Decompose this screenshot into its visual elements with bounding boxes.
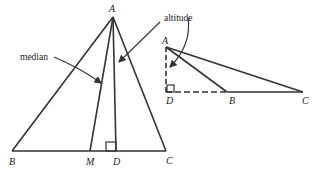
vertex-m-label: M <box>85 156 95 167</box>
right-triangle <box>166 47 303 92</box>
altitude-arrow-right <box>170 17 189 67</box>
diagram-svg: A B M D C median altitude A D B C <box>0 0 315 175</box>
vertex-a-label: A <box>108 3 116 14</box>
altitude-arrow <box>119 22 160 62</box>
altitude-line <box>113 17 116 151</box>
median-line <box>90 17 113 151</box>
vertex-d-right-label: D <box>165 95 174 106</box>
left-triangle <box>12 17 166 151</box>
side-ab <box>12 17 113 151</box>
right-angle-mark <box>106 142 116 151</box>
median-label: median <box>20 52 48 62</box>
median-arrow <box>54 57 101 83</box>
triangle-diagram: A B M D C median altitude A D B C <box>0 0 315 175</box>
side-ac-right <box>166 47 303 92</box>
vertex-b-label: B <box>9 156 15 167</box>
vertex-c-label: C <box>166 155 173 166</box>
vertex-b-right-label: B <box>229 95 235 106</box>
vertex-a-right-label: A <box>161 35 169 46</box>
vertex-c-right-label: C <box>302 95 309 106</box>
side-ab-right <box>166 47 227 92</box>
vertex-d-label: D <box>112 156 121 167</box>
right-angle-mark-right <box>167 85 174 92</box>
side-ac <box>113 17 166 151</box>
